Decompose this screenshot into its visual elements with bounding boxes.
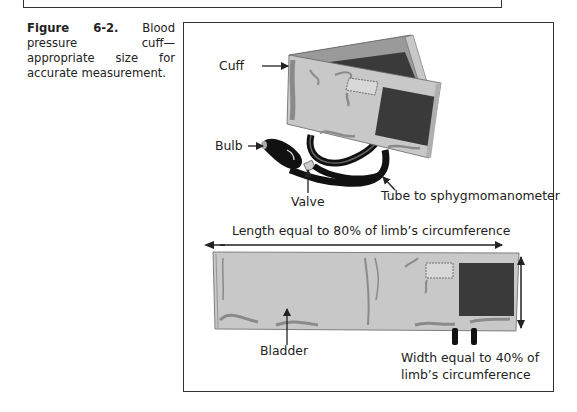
flat-cuff <box>213 252 519 345</box>
label-tube: Tube to sphygmomanometer <box>381 188 560 203</box>
label-bladder: Bladder <box>260 343 308 358</box>
label-width-line1: Width equal to 40% of <box>401 350 539 365</box>
label-width-line2: limb’s circumference <box>401 367 531 382</box>
label-cuff: Cuff <box>219 58 244 73</box>
label-bulb: Bulb <box>215 138 243 153</box>
label-length: Length equal to 80% of limb’s circumfere… <box>232 223 510 238</box>
label-valve: Valve <box>291 194 325 209</box>
